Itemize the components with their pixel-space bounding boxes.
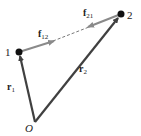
- particle-2-label: 2: [127, 9, 133, 21]
- particle-1-dot: [16, 49, 23, 56]
- r1-label: r1: [7, 81, 15, 94]
- r2-label-sub: 2: [83, 68, 87, 76]
- origin-label: O: [25, 122, 33, 134]
- r1-label-sub: 1: [11, 86, 15, 94]
- vector-r1-arrow: [20, 56, 35, 122]
- f12-label-sub: 12: [41, 33, 49, 41]
- diagram-svg: 1 2 O f12 f21 r1 r2: [0, 0, 141, 136]
- f21-label-sub: 21: [86, 12, 94, 20]
- f21-label: f21: [83, 7, 94, 20]
- r2-label: r2: [79, 63, 87, 76]
- f12-label: f12: [38, 28, 49, 41]
- force-f12-arrow: [19, 41, 54, 52]
- force-diagram: 1 2 O f12 f21 r1 r2: [0, 0, 141, 136]
- particle-1-label: 1: [5, 46, 11, 58]
- dashed-connector-line: [53, 27, 89, 41]
- particle-2-dot: [118, 11, 125, 18]
